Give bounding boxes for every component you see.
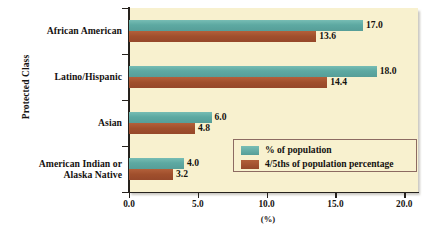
legend-swatch-four-fifths (241, 160, 259, 169)
category-label: African American (0, 25, 122, 37)
bar-four-fifths (129, 123, 195, 134)
x-tick (267, 192, 268, 198)
legend-label: 4/5ths of population percentage (265, 158, 394, 169)
bar-value-label: 13.6 (319, 30, 336, 41)
x-tick-label: 0.0 (108, 199, 150, 209)
x-axis-line (128, 192, 419, 194)
legend-swatch-pop (241, 146, 259, 155)
y-tick (122, 100, 129, 101)
bar-chart: Protected Class African AmericanLatino/H… (0, 0, 436, 231)
chart-legend: % of population4/5ths of population perc… (233, 139, 417, 172)
x-tick (129, 192, 130, 198)
x-tick-label: 15.0 (314, 199, 356, 209)
bar-value-label: 18.0 (380, 65, 397, 76)
category-axis-labels: African AmericanLatino/HispanicAsianAmer… (0, 8, 122, 192)
bar-value-label: 6.0 (215, 111, 227, 122)
bar-four-fifths (129, 31, 316, 42)
x-tick-label: 10.0 (246, 199, 288, 209)
category-label: American Indian orAlaska Native (0, 158, 122, 181)
y-tick (122, 8, 129, 9)
category-label: Latino/Hispanic (0, 71, 122, 83)
x-tick-label: 5.0 (177, 199, 219, 209)
y-tick (122, 146, 129, 147)
bar-value-label: 17.0 (366, 19, 383, 30)
legend-label: % of population (265, 144, 332, 155)
bar-value-label: 4.0 (187, 157, 199, 168)
bar-value-label: 14.4 (330, 76, 347, 87)
x-tick (404, 192, 405, 198)
category-label: Asian (0, 117, 122, 129)
y-tick (122, 192, 129, 193)
bar-four-fifths (129, 169, 173, 180)
x-tick (335, 192, 336, 198)
x-tick-label: 20.0 (383, 199, 425, 209)
bar-four-fifths (129, 77, 327, 88)
bar-value-label: 3.2 (176, 168, 188, 179)
y-tick (122, 54, 129, 55)
x-axis-title: (%) (247, 214, 289, 224)
x-tick (198, 192, 199, 198)
bar-value-label: 4.8 (198, 122, 210, 133)
